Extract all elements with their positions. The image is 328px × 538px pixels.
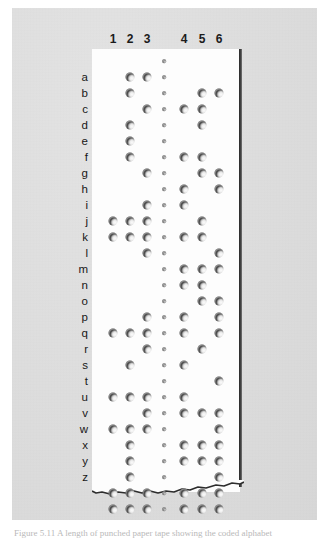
row-label-g: g bbox=[82, 168, 88, 179]
sprocket-hole bbox=[162, 395, 166, 399]
punch-hole-track-3-row-i bbox=[143, 201, 152, 210]
punched-holes-layer bbox=[92, 49, 242, 492]
punch-hole-track-2-row-f bbox=[126, 153, 135, 162]
row-label-i: i bbox=[85, 200, 88, 211]
figure-page: 123456 abcdefghijklmnopqrstuvwxyz Figure… bbox=[0, 0, 328, 538]
punch-hole-track-4-row-v bbox=[180, 409, 189, 418]
punch-hole-track-1 bbox=[109, 505, 118, 514]
sprocket-hole bbox=[162, 507, 166, 511]
sprocket-hole bbox=[162, 363, 166, 367]
punch-hole-track-2-row-j bbox=[126, 217, 135, 226]
row-label-f: f bbox=[85, 152, 88, 163]
row-label-e: e bbox=[82, 136, 88, 147]
punch-hole-track-4-row-y bbox=[180, 457, 189, 466]
punch-hole-track-4-row-i bbox=[180, 201, 189, 210]
row-label-m: m bbox=[78, 264, 88, 275]
punch-hole-track-2-row-q bbox=[126, 329, 135, 338]
punch-hole-track-5-row-f bbox=[198, 153, 207, 162]
punch-hole-track-5-row-k bbox=[198, 233, 207, 242]
punch-hole-track-3-row-g bbox=[143, 169, 152, 178]
punch-hole-track-6-row-o bbox=[215, 297, 224, 306]
punch-hole-track-3-row-k bbox=[143, 233, 152, 242]
punch-hole-track-1-row-k bbox=[109, 233, 118, 242]
sprocket-hole bbox=[162, 139, 166, 143]
punch-hole-track-4-row-c bbox=[180, 105, 189, 114]
punch-hole-track-5-row-y bbox=[198, 457, 207, 466]
punch-hole-track-5-row-c bbox=[198, 105, 207, 114]
punch-hole-track-4 bbox=[180, 505, 189, 514]
punch-hole-track-1-row-j bbox=[109, 217, 118, 226]
punch-hole-track-2 bbox=[126, 489, 135, 498]
punch-hole-track-4-row-f bbox=[180, 153, 189, 162]
punch-hole-track-3-row-l bbox=[143, 249, 152, 258]
punch-hole-track-2-row-w bbox=[126, 425, 135, 434]
punch-hole-track-4-row-k bbox=[180, 233, 189, 242]
sprocket-hole bbox=[162, 91, 166, 95]
sprocket-hole bbox=[162, 75, 166, 79]
punch-hole-track-6-row-g bbox=[215, 169, 224, 178]
row-label-z: z bbox=[82, 472, 88, 483]
punch-hole-track-4-row-m bbox=[180, 265, 189, 274]
punch-hole-track-2-row-k bbox=[126, 233, 135, 242]
punch-hole-track-3 bbox=[143, 489, 152, 498]
row-label-n: n bbox=[82, 280, 88, 291]
punch-hole-track-6-row-t bbox=[215, 377, 224, 386]
row-label-k: k bbox=[82, 232, 88, 243]
punch-hole-track-6-row-p bbox=[215, 313, 224, 322]
sprocket-hole bbox=[162, 379, 166, 383]
punch-hole-track-3-row-p bbox=[143, 313, 152, 322]
punch-hole-track-4-row-u bbox=[180, 393, 189, 402]
figure-caption: Figure 5.11 A length of punched paper ta… bbox=[14, 528, 314, 538]
punch-hole-track-6-row-v bbox=[215, 409, 224, 418]
punch-hole-track-2-row-e bbox=[126, 137, 135, 146]
punch-hole-track-6 bbox=[215, 489, 224, 498]
row-label-u: u bbox=[82, 392, 88, 403]
punch-hole-track-5-row-x bbox=[198, 441, 207, 450]
punch-hole-track-5-row-b bbox=[198, 89, 207, 98]
sprocket-hole bbox=[162, 171, 166, 175]
punch-hole-track-4-row-n bbox=[180, 281, 189, 290]
punch-hole-track-3-row-w bbox=[143, 425, 152, 434]
sprocket-hole bbox=[162, 331, 166, 335]
column-header-3: 3 bbox=[144, 32, 151, 46]
row-label-x: x bbox=[82, 440, 88, 451]
row-label-p: p bbox=[82, 312, 88, 323]
punch-hole-track-3-row-a bbox=[143, 73, 152, 82]
punch-hole-track-3-row-u bbox=[143, 393, 152, 402]
punch-hole-track-4-row-p bbox=[180, 313, 189, 322]
row-label-t: t bbox=[85, 376, 88, 387]
punch-hole-track-3-row-c bbox=[143, 105, 152, 114]
punch-hole-track-5 bbox=[198, 489, 207, 498]
row-label-d: d bbox=[82, 120, 88, 131]
punch-hole-track-6-row-h bbox=[215, 185, 224, 194]
sprocket-hole bbox=[162, 411, 166, 415]
sprocket-hole bbox=[162, 187, 166, 191]
sprocket-hole bbox=[162, 475, 166, 479]
punch-hole-track-6-row-z bbox=[215, 473, 224, 482]
punch-hole-track-4-row-x bbox=[180, 441, 189, 450]
punch-hole-track-3-row-v bbox=[143, 409, 152, 418]
sprocket-hole bbox=[162, 459, 166, 463]
sprocket-hole bbox=[162, 59, 166, 63]
row-label-o: o bbox=[82, 296, 88, 307]
sprocket-hole bbox=[162, 315, 166, 319]
punch-hole-track-2-row-u bbox=[126, 393, 135, 402]
row-label-w: w bbox=[80, 424, 88, 435]
row-label-b: b bbox=[82, 88, 88, 99]
sprocket-hole bbox=[162, 491, 166, 495]
punch-hole-track-6-row-l bbox=[215, 249, 224, 258]
sprocket-hole bbox=[162, 155, 166, 159]
row-label-v: v bbox=[82, 408, 88, 419]
row-label-s: s bbox=[82, 360, 88, 371]
sprocket-hole bbox=[162, 123, 166, 127]
punch-hole-track-5-row-j bbox=[198, 217, 207, 226]
punch-hole-track-2-row-y bbox=[126, 457, 135, 466]
punch-hole-track-6-row-b bbox=[215, 89, 224, 98]
punch-hole-track-5-row-m bbox=[198, 265, 207, 274]
punch-hole-track-4-row-q bbox=[180, 329, 189, 338]
punch-hole-track-4 bbox=[180, 489, 189, 498]
punch-hole-track-6-row-q bbox=[215, 329, 224, 338]
sprocket-hole bbox=[162, 427, 166, 431]
punch-hole-track-5 bbox=[198, 505, 207, 514]
punch-hole-track-2-row-z bbox=[126, 473, 135, 482]
